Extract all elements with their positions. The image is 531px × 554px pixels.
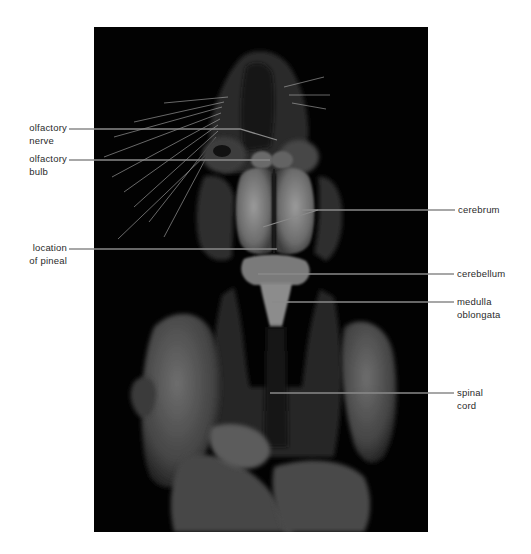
rat-dissection-image — [94, 27, 428, 532]
cerebrum-left-hemisphere — [236, 168, 273, 255]
label-line: oblongata — [457, 309, 501, 322]
label-line: nerve — [29, 135, 67, 148]
label-line: cerebrum — [458, 204, 500, 217]
label-line: location — [29, 242, 67, 255]
olfactory-bulb-left — [251, 151, 273, 169]
label-line: spinal — [457, 387, 483, 400]
label-spinal-cord: spinal cord — [457, 387, 483, 412]
label-olfactory-nerve: olfactory nerve — [29, 122, 67, 147]
label-line: medulla — [457, 296, 501, 309]
label-line: olfactory — [29, 153, 67, 166]
label-medulla-oblongata: medulla oblongata — [457, 296, 501, 321]
olfactory-bulb-right — [271, 151, 293, 169]
label-line: cerebellum — [457, 268, 505, 281]
label-line: of pineal — [29, 255, 67, 268]
cerebrum-right-hemisphere — [276, 168, 315, 255]
label-line: cord — [457, 400, 483, 413]
cerebellum — [241, 255, 309, 285]
label-location-of-pineal: location of pineal — [29, 242, 67, 267]
anatomy-figure: olfactory nerve olfactory bulb location … — [0, 0, 531, 554]
medulla-oblongata — [260, 283, 292, 327]
specimen-photo — [94, 27, 428, 532]
spinal-cord — [264, 327, 288, 447]
right-forelimb — [342, 322, 397, 463]
label-cerebrum: cerebrum — [458, 204, 500, 217]
label-line: olfactory — [29, 122, 67, 135]
label-olfactory-bulb: olfactory bulb — [29, 153, 67, 178]
label-line: bulb — [29, 166, 67, 179]
label-cerebellum: cerebellum — [457, 268, 505, 281]
